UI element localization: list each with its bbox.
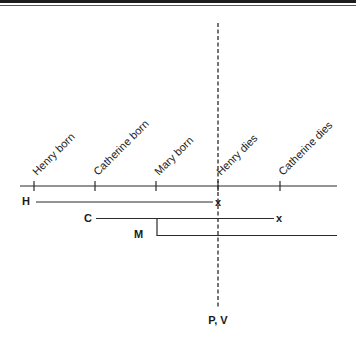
death-mark-henry: x [215, 196, 222, 208]
lifeline-label-m: M [134, 228, 143, 240]
death-mark-catherine: x [276, 212, 283, 224]
event-label-henry-dies: Henry dies [214, 131, 260, 177]
lifeline-label-h: H [22, 195, 30, 207]
timeline-diagram: P, V Henry bornCatherine bornMary bornHe… [0, 0, 356, 348]
reference-line-label: P, V [208, 314, 228, 326]
event-label-catherine-dies: Catherine dies [276, 118, 335, 177]
lifeline-mary [157, 219, 337, 236]
top-border-thick [0, 0, 356, 3]
event-label-mary-born: Mary born [152, 134, 196, 178]
event-label-catherine-born: Catherine born [91, 117, 151, 177]
event-label-henry-born: Henry born [30, 130, 77, 177]
lifeline-label-c: C [84, 212, 92, 224]
